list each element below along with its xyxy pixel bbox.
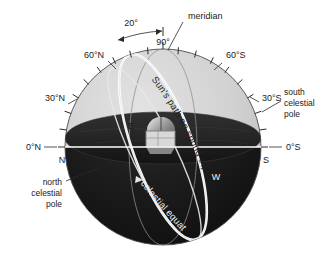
south-celestial-pole-label-line3: pole [284, 109, 300, 119]
celestial-sphere-diagram: 20° 90° meridian 60°N 30°N 0°N N 60°S 30… [0, 0, 335, 265]
north-celestial-pole-label-line1: north [43, 177, 63, 187]
cardinal-east-label: E [128, 121, 134, 131]
declination-60s-label: 60°S [226, 50, 246, 60]
angle-span-label: 20° [124, 18, 138, 28]
cardinal-north-label: N [59, 155, 66, 165]
meridian-label: meridian [188, 11, 223, 21]
cardinal-west-label: W [212, 172, 221, 182]
observer-dome [146, 117, 175, 154]
thirty-south-leader [250, 97, 259, 102]
declination-30s-label: 30°S [262, 93, 282, 103]
cardinal-south-label: S [263, 155, 269, 165]
north-celestial-pole-label-line3: pole [46, 199, 62, 209]
declination-0n-label: 0°N [26, 142, 41, 152]
south-celestial-pole-label-line1: south [284, 87, 305, 97]
celestial-sphere-illustration: 20° 90° meridian 60°N 30°N 0°N N 60°S 30… [0, 0, 335, 265]
meridian-leader-line [168, 22, 183, 50]
south-celestial-pole-label-line2: celestial [284, 98, 315, 108]
zenith-angle-label: 90° [156, 37, 170, 47]
declination-0s-label: 0°S [286, 142, 301, 152]
north-celestial-pole-label-line2: celestial [31, 188, 62, 198]
declination-60n-label: 60°N [84, 50, 104, 60]
declination-30n-label: 30°N [45, 93, 65, 103]
